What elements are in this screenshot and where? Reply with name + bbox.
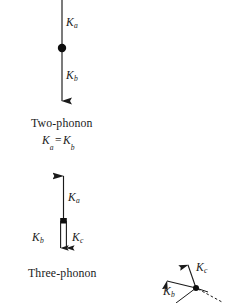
label-two-phonon-kb-subscript: b — [74, 74, 78, 83]
label-three-phonon-kb: Kb — [32, 232, 44, 244]
momentum-vector-triad — [167, 265, 222, 303]
label-triad-kb: Kb — [163, 286, 175, 298]
equation-two-phonon: Ka=Kb — [42, 135, 74, 149]
label-three-phonon-ka-symbol: K — [68, 191, 76, 203]
triad-kc-vector — [188, 265, 196, 288]
caption-three-phonon: Three-phonon — [28, 268, 97, 280]
label-two-phonon-kb: Kb — [66, 70, 78, 82]
figure-canvas: Ka Kb Two-phonon Ka=Kb Ka Kb Kc Three-ph… — [0, 0, 229, 303]
triad-dashed-ray — [198, 289, 222, 302]
equation-rhs-symbol: K — [63, 134, 71, 146]
phonon-process-diagram — [0, 0, 229, 303]
label-triad-kb-subscript: b — [171, 290, 175, 299]
label-three-phonon-kb-subscript: b — [40, 236, 44, 245]
two-phonon-diagram — [58, 0, 66, 101]
label-triad-kb-symbol: K — [163, 285, 171, 297]
label-triad-kc-subscript: c — [204, 266, 207, 275]
triad-incoming-vector — [176, 288, 196, 303]
equation-operator: = — [53, 134, 63, 146]
label-three-phonon-kc-symbol: K — [72, 231, 80, 243]
label-three-phonon-kb-symbol: K — [32, 231, 40, 243]
label-two-phonon-ka-symbol: K — [66, 16, 74, 28]
label-triad-kc: Kc — [196, 262, 207, 274]
two-phonon-scattering-node — [58, 44, 66, 52]
caption-two-phonon: Two-phonon — [31, 118, 93, 130]
label-triad-kc-symbol: K — [196, 261, 204, 273]
equation-lhs-subscript: a — [50, 143, 54, 152]
label-three-phonon-ka: Ka — [68, 192, 80, 204]
label-three-phonon-ka-subscript: a — [76, 196, 80, 205]
label-two-phonon-kb-symbol: K — [66, 69, 74, 81]
label-three-phonon-kc-subscript: c — [80, 236, 83, 245]
label-three-phonon-kc: Kc — [72, 232, 83, 244]
equation-lhs-symbol: K — [42, 134, 50, 146]
label-two-phonon-ka: Ka — [66, 17, 78, 29]
three-phonon-scattering-node — [60, 218, 67, 224]
equation-rhs-subscript: b — [71, 143, 75, 152]
three-phonon-diagram — [60, 176, 67, 248]
triad-node — [193, 285, 199, 291]
label-two-phonon-ka-subscript: a — [74, 21, 78, 30]
